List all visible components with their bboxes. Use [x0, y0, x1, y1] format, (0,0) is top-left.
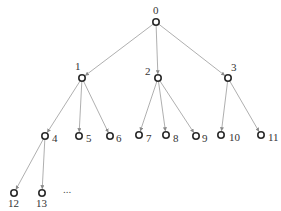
- edge-3-11: [230, 81, 259, 132]
- tree-node-13: [39, 190, 45, 196]
- node-label-1: 1: [75, 60, 81, 72]
- node-label-13: 13: [36, 197, 48, 209]
- node-label-3: 3: [231, 61, 237, 73]
- node-label-2: 2: [145, 65, 151, 77]
- node-label-8: 8: [173, 132, 179, 144]
- edge-1-5: [79, 81, 82, 132]
- edge-2-8: [158, 81, 165, 131]
- edge-3-10: [222, 81, 228, 131]
- node-label-4: 4: [52, 132, 58, 144]
- ellipsis-more-nodes: ...: [63, 183, 72, 195]
- tree-node-9: [193, 133, 199, 139]
- node-label-0: 0: [153, 4, 159, 16]
- nodes-group: 012345678910111213: [8, 4, 279, 209]
- node-label-7: 7: [146, 132, 152, 144]
- tree-node-6: [107, 133, 113, 139]
- edges-group: [16, 24, 259, 189]
- edge-4-13: [42, 139, 45, 189]
- node-label-6: 6: [116, 132, 122, 144]
- tree-node-5: [76, 133, 82, 139]
- tree-node-10: [218, 132, 224, 138]
- edge-1-4: [47, 81, 80, 133]
- tree-diagram: 012345678910111213 ...: [0, 0, 281, 211]
- tree-node-12: [11, 190, 17, 196]
- tree-node-11: [258, 132, 264, 138]
- edge-0-2: [156, 25, 158, 74]
- node-label-10: 10: [229, 131, 241, 143]
- tree-node-0: [153, 19, 159, 25]
- node-label-12: 12: [8, 197, 19, 209]
- tree-node-3: [225, 75, 231, 81]
- tree-node-4: [42, 133, 48, 139]
- edge-2-7: [140, 81, 157, 131]
- node-label-11: 11: [268, 131, 279, 143]
- edge-1-6: [83, 81, 108, 132]
- node-label-9: 9: [202, 132, 208, 144]
- tree-node-2: [155, 75, 161, 81]
- tree-node-8: [163, 132, 169, 138]
- edge-0-3: [159, 24, 225, 75]
- tree-node-7: [136, 132, 142, 138]
- edge-4-12: [16, 139, 43, 189]
- node-label-5: 5: [86, 132, 92, 144]
- tree-node-1: [79, 75, 85, 81]
- edge-0-1: [85, 24, 153, 76]
